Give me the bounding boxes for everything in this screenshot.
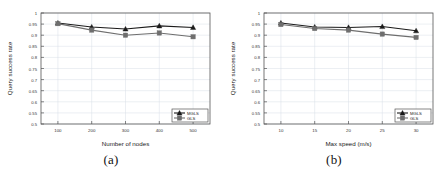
data-point-marker [56, 21, 60, 25]
y-tick-label: 0.95 [29, 22, 38, 27]
panel-a-caption: (a) [0, 152, 222, 168]
data-point-marker [279, 22, 283, 26]
y-axis-label: Query success rate [6, 41, 13, 95]
y-tick-label: 0.8 [31, 55, 37, 60]
x-tick-label: 300 [122, 128, 130, 133]
x-axis-label: Max speed (m/s) [325, 140, 371, 147]
y-tick-label: 0.95 [252, 22, 261, 27]
legend-label: GLS [410, 116, 419, 121]
y-tick-label: 0.55 [29, 111, 38, 116]
y-tick-label: 0.9 [254, 33, 260, 38]
y-tick-label: 0.7 [254, 78, 260, 83]
y-tick-label: 0.6 [31, 100, 37, 105]
y-tick-label: 0.75 [29, 67, 38, 72]
y-tick-label: 0.9 [31, 33, 37, 38]
y-tick-label: 0.85 [252, 44, 261, 49]
x-tick-label: 20 [346, 128, 351, 133]
data-point-marker [157, 31, 161, 35]
y-tick-label: 0.5 [31, 122, 37, 127]
y-tick-label: 0.5 [254, 122, 260, 127]
legend: MGLSGLS [395, 109, 431, 122]
chart-b: 0.50.550.60.650.70.750.80.850.90.9511015… [223, 0, 445, 152]
y-tick-label: 0.8 [254, 55, 260, 60]
data-point-marker [191, 35, 195, 39]
chart-a: 0.50.550.60.650.70.750.80.850.90.9511002… [0, 0, 222, 152]
legend: MGLSGLS [172, 109, 208, 122]
y-axis-label: Query success rate [229, 41, 236, 95]
y-tick-label: 0.75 [252, 67, 261, 72]
x-tick-label: 30 [414, 128, 419, 133]
panel-a: 0.50.550.60.650.70.750.80.850.90.9511002… [0, 0, 222, 186]
data-point-marker [123, 33, 127, 37]
x-tick-label: 15 [312, 128, 317, 133]
data-point-marker [313, 26, 317, 30]
data-point-marker [346, 28, 350, 32]
x-tick-label: 10 [278, 128, 283, 133]
x-axis-label: Number of nodes [102, 140, 149, 147]
y-tick-label: 0.7 [31, 78, 37, 83]
legend-label: GLS [187, 116, 196, 121]
data-point-marker [90, 28, 94, 32]
panel-b: 0.50.550.60.650.70.750.80.850.90.9511015… [223, 0, 445, 186]
y-tick-label: 0.6 [254, 100, 260, 105]
data-point-marker [380, 32, 384, 36]
x-tick-label: 500 [189, 128, 197, 133]
chart-svg: 0.50.550.60.650.70.750.80.850.90.9511002… [0, 0, 222, 152]
y-tick-label: 0.55 [252, 111, 261, 116]
x-tick-label: 100 [54, 128, 62, 133]
y-tick-label: 0.65 [252, 89, 261, 94]
x-tick-label: 400 [156, 128, 164, 133]
y-tick-label: 1 [35, 11, 38, 16]
y-tick-label: 0.65 [29, 89, 38, 94]
x-tick-label: 25 [380, 128, 385, 133]
data-point-marker [177, 116, 181, 120]
y-tick-label: 0.85 [29, 44, 38, 49]
chart-svg: 0.50.550.60.650.70.750.80.850.90.9511015… [223, 0, 445, 152]
figure-two-panel: 0.50.550.60.650.70.750.80.850.90.9511002… [0, 0, 445, 186]
data-point-marker [400, 116, 404, 120]
data-point-marker [414, 35, 418, 39]
y-tick-label: 1 [258, 11, 261, 16]
x-tick-label: 200 [88, 128, 96, 133]
panel-b-caption: (b) [223, 152, 445, 168]
